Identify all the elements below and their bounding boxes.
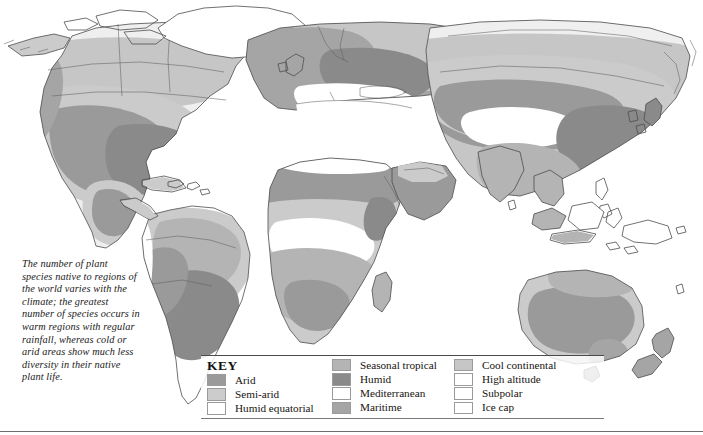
- swatch-high-altitude: [454, 373, 473, 386]
- swatch-mediterranean: [332, 387, 351, 400]
- legend-label-humid: Humid: [360, 374, 391, 385]
- legend-item-subpolar[interactable]: Subpolar: [454, 387, 556, 401]
- legend-label-humid-equatorial: Humid equatorial: [235, 403, 314, 414]
- legend-label-subpolar: Subpolar: [482, 388, 522, 399]
- legend-item-semi-arid[interactable]: Semi-arid: [207, 387, 314, 401]
- legend-column-3: Cool continental High altitude Subpolar …: [454, 358, 556, 415]
- legend-label-ice-cap: Ice cap: [482, 402, 514, 413]
- swatch-semi-arid: [207, 388, 226, 401]
- swatch-ice-cap: [454, 402, 473, 415]
- legend-item-mediterranean[interactable]: Mediterranean: [332, 387, 437, 401]
- legend-column-2: Seasonal tropical Humid Mediterranean Ma…: [332, 358, 437, 415]
- swatch-cool-continental: [454, 359, 473, 372]
- legend-label-high-altitude: High altitude: [482, 374, 541, 385]
- legend-title: KEY: [207, 358, 238, 374]
- figure-caption: The number of plant species native to re…: [22, 258, 140, 384]
- legend-label-arid: Arid: [235, 375, 256, 386]
- legend-item-humid[interactable]: Humid: [332, 372, 437, 386]
- legend-item-cool-continental[interactable]: Cool continental: [454, 358, 556, 372]
- legend-label-seasonal-tropical: Seasonal tropical: [360, 360, 437, 371]
- legend-label-semi-arid: Semi-arid: [235, 389, 279, 400]
- legend-item-humid-equatorial[interactable]: Humid equatorial: [207, 402, 314, 416]
- swatch-subpolar: [454, 387, 473, 400]
- swatch-humid-equatorial: [207, 402, 226, 415]
- legend-item-ice-cap[interactable]: Ice cap: [454, 401, 556, 415]
- legend-item-arid[interactable]: Arid: [207, 373, 314, 387]
- map-legend: KEY Arid Semi-arid Humid equatorial Seas…: [201, 355, 604, 419]
- page-bottom-rule: [0, 431, 703, 432]
- climate-map-figure: .arid { fill:#9a9a9a; } .semiarid { fill…: [0, 0, 703, 435]
- legend-item-seasonal-tropical[interactable]: Seasonal tropical: [332, 358, 437, 372]
- swatch-arid: [207, 374, 226, 387]
- legend-label-mediterranean: Mediterranean: [360, 388, 425, 399]
- swatch-maritime: [332, 402, 351, 415]
- legend-item-high-altitude[interactable]: High altitude: [454, 372, 556, 386]
- legend-column-1: Arid Semi-arid Humid equatorial: [207, 373, 314, 416]
- legend-label-maritime: Maritime: [360, 402, 402, 413]
- legend-label-cool-continental: Cool continental: [482, 360, 556, 371]
- legend-item-maritime[interactable]: Maritime: [332, 401, 437, 415]
- swatch-humid: [332, 373, 351, 386]
- swatch-seasonal-tropical: [332, 359, 351, 372]
